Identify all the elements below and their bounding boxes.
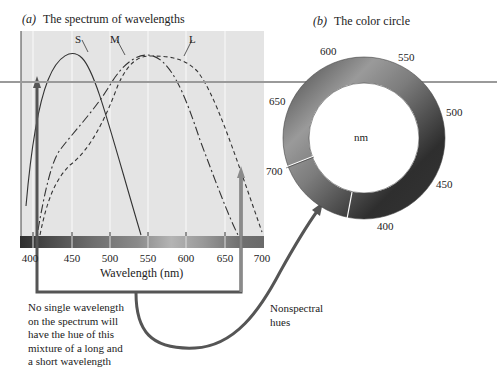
curve-label-m: M	[110, 33, 120, 45]
ring-label-700: 700	[266, 165, 283, 177]
panel-a-label: (a)	[22, 12, 36, 26]
tick-400: 400	[22, 252, 39, 264]
ring-center-label: nm	[354, 131, 368, 143]
panel-a-title-text: The spectrum of wavelengths	[43, 12, 185, 26]
ring-label-550: 550	[398, 51, 415, 63]
caption-mixture: No single wavelength on the spectrum wil…	[28, 301, 124, 369]
tick-650: 650	[217, 252, 234, 264]
ring-label-600: 600	[320, 45, 337, 57]
x-axis-label: Wavelength (nm)	[100, 266, 183, 281]
tick-600: 600	[178, 252, 195, 264]
tick-450: 450	[64, 252, 81, 264]
spectrum-bar	[20, 236, 264, 248]
caption-nonspectral: Nonspectral hues	[270, 302, 323, 329]
spectrum-chart	[20, 31, 264, 248]
caption-line: on the spectrum will	[28, 315, 124, 329]
ring-label-500: 500	[446, 106, 463, 118]
caption-line: have the hue of this	[28, 328, 124, 342]
caption-line: hues	[270, 316, 323, 330]
caption-line: mixture of a long and	[28, 342, 124, 356]
caption-line: No single wavelength	[28, 301, 124, 315]
ring-label-400: 400	[377, 220, 394, 232]
panel-b-title: (b) The color circle	[313, 14, 410, 29]
ring-label-450: 450	[436, 178, 453, 190]
curve-label-s: S	[75, 33, 81, 45]
panel-b-label: (b)	[313, 14, 327, 28]
caption-line: Nonspectral	[270, 302, 323, 316]
caption-line: a short wavelength	[28, 355, 124, 369]
tick-500: 500	[102, 252, 119, 264]
curve-label-l: L	[189, 33, 196, 45]
panel-a-title: (a) The spectrum of wavelengths	[22, 12, 185, 27]
tick-700: 700	[254, 252, 271, 264]
ring-label-650: 650	[269, 95, 286, 107]
tick-550: 550	[140, 252, 157, 264]
panel-b-title-text: The color circle	[334, 14, 410, 28]
